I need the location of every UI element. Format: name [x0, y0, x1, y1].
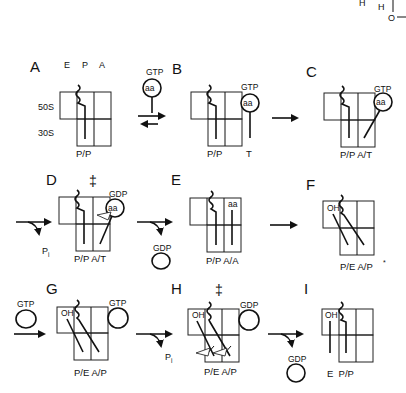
oh-label: OH	[327, 203, 340, 213]
aa-label: aa	[145, 83, 155, 93]
release-arrow	[281, 334, 292, 346]
release-arrow	[150, 222, 161, 234]
gdp-label: GDP	[288, 354, 307, 364]
o-atom-label: O	[388, 13, 395, 23]
aa-label: aa	[376, 97, 386, 107]
aa-label: aa	[108, 203, 118, 213]
state-label: P/E A/P	[340, 261, 373, 272]
state-label: P/E A/P	[74, 367, 107, 378]
ribosome-translation-diagram: H H O A E P A 50S 30S P/P GTP aa B	[0, 0, 406, 393]
state-asterisk: *	[383, 259, 386, 266]
panel-letter: G	[46, 280, 58, 297]
state-label: P/P	[207, 148, 222, 159]
conformational-change-wedge	[97, 212, 111, 220]
h-atom-label: H	[359, 0, 366, 8]
panel-a: A E P A 50S 30S P/P	[30, 58, 111, 159]
gdp-label: GDP	[240, 300, 259, 310]
panel-letter: I	[304, 280, 308, 297]
conformational-change-wedge	[213, 348, 227, 356]
subunit-label-30s: 30S	[38, 128, 54, 138]
release-arrow	[28, 222, 39, 234]
chemical-fragment: H H O	[359, 0, 406, 23]
panel-letter: C	[306, 63, 317, 80]
pi-subscript: i	[48, 251, 49, 258]
ef-g-circle	[239, 310, 259, 330]
state-label: P/P A/T	[340, 149, 372, 160]
state-label: P/E A/P	[204, 366, 237, 377]
panel-d: D ‡ P i GDP aa P/P A/T	[16, 171, 128, 264]
site-label-p: P	[82, 60, 88, 70]
gtp-label: GTP	[146, 67, 164, 77]
panel-letter: E	[171, 171, 181, 188]
subunit-label-50s: 50S	[38, 102, 54, 112]
oh-label: OH	[192, 310, 205, 320]
ef-g-circle	[287, 364, 305, 382]
panel-e: E GDP aa P/P A/A	[137, 171, 241, 269]
panel-g: G GTP OH GTP P/E A/P	[14, 280, 128, 378]
ef-tu-circle	[152, 253, 170, 269]
panel-i: I GDP OH E P/P	[268, 280, 373, 382]
site-label-a: A	[99, 60, 105, 70]
transition-state-mark: ‡	[89, 173, 97, 189]
panel-letter: F	[306, 176, 315, 193]
gtp-label: GTP	[109, 298, 127, 308]
ef-g-circle	[16, 310, 36, 328]
panel-c: C GTP aa P/P A/T	[306, 63, 392, 160]
oh-label: OH	[325, 310, 338, 320]
gtp-label: GTP	[17, 299, 35, 309]
gdp-label: GDP	[153, 243, 172, 253]
state-label: P/P	[76, 148, 91, 159]
ef-g-circle	[108, 308, 128, 328]
aa-label: aa	[243, 98, 253, 108]
pi-subscript: i	[171, 357, 172, 364]
panel-letter: H	[171, 280, 182, 297]
free-ternary-complex: GTP aa	[138, 67, 164, 124]
panel-letter: D	[46, 171, 57, 188]
state-label-t: T	[246, 148, 252, 159]
state-label: P/P A/T	[74, 253, 106, 264]
gtp-label: GTP	[241, 82, 259, 92]
panel-letter: B	[172, 60, 182, 77]
transition-state-mark: ‡	[215, 282, 223, 298]
oh-label: OH	[61, 308, 74, 318]
release-arrow	[150, 334, 161, 346]
h-atom-label: H	[378, 2, 385, 12]
site-label-e: E	[64, 60, 70, 70]
panel-letter: A	[30, 58, 40, 75]
state-label: E P/P	[327, 368, 354, 379]
panel-f: F OH P/E A/P *	[306, 176, 386, 272]
panel-h: H ‡ P i OH GDP P/E A/P	[136, 280, 259, 377]
panel-b: B GTP aa P/P T	[172, 60, 259, 159]
conformational-change-wedge	[196, 348, 210, 356]
aa-label: aa	[228, 199, 238, 209]
gdp-label: GDP	[109, 189, 128, 199]
state-label: P/P A/A	[206, 255, 239, 266]
